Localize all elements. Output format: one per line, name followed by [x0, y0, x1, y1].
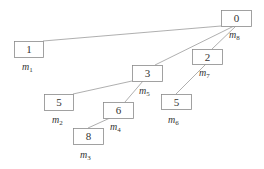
- tree-node: 1m1: [15, 42, 44, 75]
- edge-n6-n8: [88, 118, 110, 128]
- node-value: 3: [145, 67, 151, 79]
- node-label: m4: [110, 121, 121, 134]
- node-value: 2: [205, 51, 211, 63]
- node-value: 0: [234, 12, 240, 24]
- node-value: 6: [116, 104, 122, 116]
- tree-node: 6m4: [104, 103, 134, 135]
- node-label: m8: [229, 29, 240, 42]
- tree-node: 5m6: [162, 95, 192, 128]
- edge-n0-n1: [43, 26, 221, 41]
- node-value: 5: [174, 96, 180, 108]
- node-label: m6: [168, 114, 179, 127]
- node-label: m5: [139, 85, 150, 98]
- node-label: m2: [52, 114, 63, 127]
- tree-node: 3m5: [133, 66, 163, 99]
- tree-node: 5m2: [45, 95, 74, 128]
- tree-node: 8m3: [74, 129, 104, 163]
- node-value: 5: [56, 96, 62, 108]
- tree-diagram: 0m81m12m73m55m25m66m48m3: [0, 0, 264, 169]
- tree-node: 0m8: [222, 11, 252, 43]
- node-label: m3: [80, 149, 91, 162]
- tree-node: 2m7: [193, 50, 223, 81]
- node-value: 8: [86, 130, 92, 142]
- node-label: m7: [199, 67, 210, 80]
- edge-n3-n5a: [73, 81, 132, 94]
- node-label: m1: [22, 61, 33, 74]
- node-value: 1: [26, 43, 32, 55]
